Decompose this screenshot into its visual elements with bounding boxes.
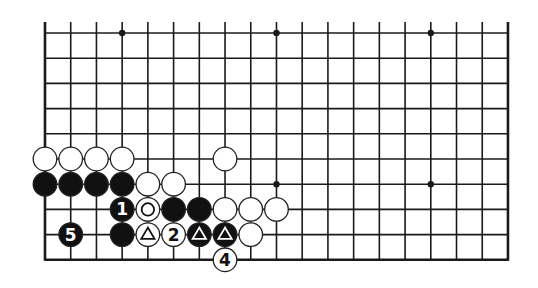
black-stone bbox=[213, 223, 237, 247]
white-stone bbox=[33, 147, 57, 171]
black-stone-move-1: 1 bbox=[110, 198, 134, 222]
white-stone bbox=[162, 172, 186, 196]
black-stone bbox=[110, 172, 134, 196]
white-stone bbox=[110, 147, 134, 171]
black-stone bbox=[188, 198, 212, 222]
move-number-label: 1 bbox=[116, 199, 128, 219]
star-point-icon bbox=[273, 181, 279, 187]
star-point-icon bbox=[428, 181, 434, 187]
black-stone bbox=[59, 172, 83, 196]
black-stone-move-5: 5 bbox=[59, 223, 83, 247]
white-stone bbox=[136, 198, 160, 222]
white-stone bbox=[85, 147, 109, 171]
black-stone bbox=[85, 172, 109, 196]
black-stone bbox=[162, 198, 186, 222]
star-point-icon bbox=[428, 30, 434, 36]
star-point-icon bbox=[119, 30, 125, 36]
white-stone bbox=[136, 223, 160, 247]
white-stone bbox=[136, 172, 160, 196]
white-stone bbox=[265, 198, 289, 222]
white-stone bbox=[239, 198, 263, 222]
white-stone bbox=[239, 223, 263, 247]
go-board: 1524 bbox=[0, 0, 538, 288]
move-number-label: 2 bbox=[168, 225, 180, 245]
move-number-label: 4 bbox=[219, 250, 231, 270]
move-number-label: 5 bbox=[65, 225, 77, 245]
black-stone bbox=[188, 223, 212, 247]
white-stone bbox=[213, 198, 237, 222]
star-point-icon bbox=[273, 30, 279, 36]
white-stone bbox=[213, 147, 237, 171]
white-stone-move-2: 2 bbox=[162, 223, 186, 247]
black-stone bbox=[110, 223, 134, 247]
white-stone-move-4: 4 bbox=[213, 248, 237, 272]
black-stone bbox=[33, 172, 57, 196]
white-stone bbox=[59, 147, 83, 171]
